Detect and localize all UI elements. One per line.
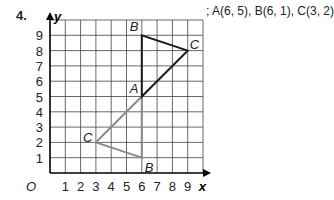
x-tick-label: 4 bbox=[108, 179, 115, 194]
origin-label: O bbox=[26, 179, 36, 194]
y-axis-arrow-icon bbox=[46, 12, 54, 20]
y-tick-label: 3 bbox=[36, 120, 43, 135]
y-tick-label: 2 bbox=[36, 135, 43, 150]
vertex-label-c: C bbox=[190, 37, 200, 52]
x-tick-label: 9 bbox=[184, 179, 191, 194]
x-tick-label: 7 bbox=[153, 179, 160, 194]
x-tick-label: 1 bbox=[62, 179, 69, 194]
y-axis-label: y bbox=[53, 9, 62, 24]
y-tick-label: 7 bbox=[36, 59, 43, 74]
vertex-label-a: A bbox=[129, 81, 139, 96]
x-tick-label: 6 bbox=[138, 179, 145, 194]
y-tick-label: 9 bbox=[36, 28, 43, 43]
problem-number: 4. bbox=[16, 8, 27, 23]
y-tick-label: 4 bbox=[36, 105, 43, 120]
image-coordinates: ; A(6, 5), B(6, 1), C(3, 2) bbox=[206, 4, 334, 18]
y-tick-label: 8 bbox=[36, 44, 43, 59]
x-tick-label: 3 bbox=[92, 179, 99, 194]
x-axis-arrow-icon bbox=[203, 169, 211, 177]
x-tick-label: 5 bbox=[123, 179, 130, 194]
y-tick-label: 1 bbox=[36, 151, 43, 166]
x-tick-label: 8 bbox=[169, 179, 176, 194]
vertex-label-c: C bbox=[83, 130, 93, 145]
vertex-label-b: B bbox=[130, 19, 139, 34]
x-axis-label: x bbox=[198, 179, 207, 194]
y-tick-label: 6 bbox=[36, 74, 43, 89]
x-tick-label: 2 bbox=[77, 179, 84, 194]
vertex-label-b: B bbox=[145, 160, 154, 175]
y-tick-label: 5 bbox=[36, 90, 43, 105]
